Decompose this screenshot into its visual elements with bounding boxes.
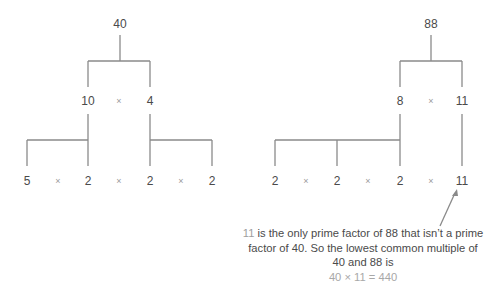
right-prime-11: 11 — [456, 175, 468, 187]
right-prime-2a: 2 — [272, 175, 279, 187]
times-symbol: × — [365, 177, 370, 186]
right-root: 88 — [424, 18, 437, 30]
right-prime-2c: 2 — [397, 175, 404, 187]
times-symbol: × — [428, 177, 433, 186]
right-factor-8: 8 — [397, 95, 404, 107]
highlight-11: 11 — [243, 227, 255, 239]
times-symbol: × — [428, 97, 433, 106]
annotation-text-1: is the only prime factor of 88 that isn’… — [254, 227, 483, 239]
right-factor-11: 11 — [456, 95, 468, 107]
left-prime-2b: 2 — [147, 175, 154, 187]
lcm-equation: 40 × 11 = 440 — [240, 270, 486, 285]
times-symbol: × — [116, 97, 121, 106]
annotation-line-1: 11 is the only prime factor of 88 that i… — [240, 226, 486, 241]
times-symbol: × — [116, 177, 121, 186]
factor-tree-diagram: 40 10 × 4 5 × 2 × 2 × 2 88 8 × 11 2 × 2 … — [0, 0, 494, 288]
times-symbol: × — [303, 177, 308, 186]
annotation-line-2: factor of 40. So the lowest common multi… — [240, 241, 486, 256]
left-prime-5: 5 — [24, 175, 31, 187]
left-root: 40 — [113, 18, 126, 30]
annotation-line-3: 40 and 88 is — [240, 255, 486, 270]
lcm-annotation: 11 is the only prime factor of 88 that i… — [240, 226, 486, 284]
times-symbol: × — [55, 177, 60, 186]
times-symbol: × — [178, 177, 183, 186]
left-prime-2a: 2 — [85, 175, 92, 187]
left-factor-4: 4 — [147, 95, 154, 107]
left-prime-2c: 2 — [209, 175, 216, 187]
arrow-head-icon — [452, 189, 458, 196]
right-prime-2b: 2 — [334, 175, 341, 187]
left-factor-10: 10 — [81, 95, 94, 107]
